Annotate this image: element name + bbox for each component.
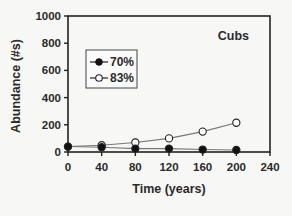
filled-circle-marker-icon (233, 146, 240, 153)
open-circle-marker-icon (96, 75, 103, 82)
open-circle-marker-icon (199, 128, 206, 135)
chart-annotation: Cubs (218, 29, 249, 43)
y-tick-label: 0 (55, 146, 61, 158)
filled-circle-marker-icon (165, 145, 172, 152)
x-tick-label: 120 (159, 161, 178, 173)
y-tick-label: 600 (42, 64, 61, 76)
x-tick-label: 80 (129, 161, 142, 173)
open-circle-marker-icon (165, 135, 172, 142)
y-tick-label: 400 (42, 92, 61, 104)
y-tick-label: 1000 (35, 10, 61, 22)
y-axis-title: Abundance (#s) (9, 39, 23, 133)
filled-circle-marker-icon (96, 59, 103, 66)
series-line (68, 147, 236, 150)
legend-label: 83% (110, 71, 134, 85)
filled-circle-marker-icon (199, 146, 206, 153)
y-tick-label: 200 (42, 119, 61, 131)
filled-circle-marker-icon (64, 143, 71, 150)
x-axis-title: Time (years) (132, 182, 205, 196)
series-line (68, 123, 236, 147)
y-tick-label: 800 (42, 37, 61, 49)
open-circle-marker-icon (233, 119, 240, 126)
filled-circle-marker-icon (132, 145, 139, 152)
legend: 70% 83% (86, 50, 137, 88)
x-axis: 04080120160200240 (65, 152, 280, 173)
x-tick-label: 240 (260, 161, 279, 173)
x-tick-label: 0 (65, 161, 71, 173)
x-tick-label: 200 (227, 161, 246, 173)
x-tick-label: 160 (193, 161, 212, 173)
filled-circle-marker-icon (98, 144, 105, 151)
data-series (64, 119, 240, 153)
y-axis: 02004006008001000 (35, 10, 68, 158)
x-tick-label: 40 (95, 161, 108, 173)
chart: 02004006008001000 04080120160200240 Cubs… (0, 0, 292, 216)
legend-label: 70% (110, 55, 134, 69)
